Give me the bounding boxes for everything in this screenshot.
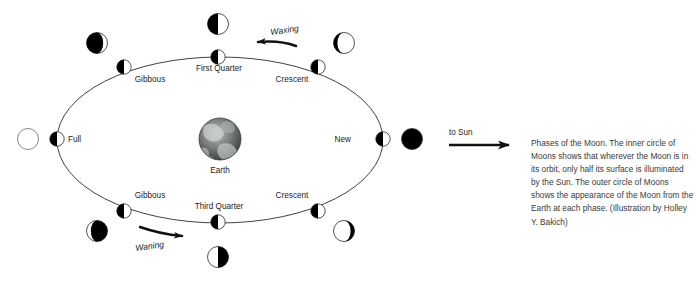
phase-label-waning-gibbous: Gibbous <box>135 191 166 200</box>
inner-moon-waning-gibbous <box>117 204 131 218</box>
inner-moon-waxing-crescent <box>311 60 325 74</box>
outer-moon-waxing-gibbous <box>87 33 108 54</box>
outer-moon-third-quarter <box>208 247 229 268</box>
inner-moon-waning-crescent <box>311 204 325 218</box>
phase-label-third-quarter: Third Quarter <box>195 202 244 211</box>
waxing-label: Waxing <box>270 23 300 37</box>
inner-moon-full <box>50 132 64 146</box>
to-sun-label: to Sun <box>449 128 473 137</box>
inner-moon-new <box>376 132 390 146</box>
outer-moon-full <box>18 129 39 150</box>
figure-caption: Phases of the Moon. The inner circle of … <box>531 137 694 229</box>
inner-moon-waxing-gibbous <box>117 60 131 74</box>
waning-label: Waning <box>135 239 165 253</box>
outer-moon-first-quarter <box>208 14 229 35</box>
outer-moon-waxing-crescent <box>334 33 355 54</box>
earth-body <box>196 118 241 164</box>
phase-label-new: New <box>335 135 351 144</box>
waning-arrow <box>140 227 182 236</box>
outer-moon-waning-gibbous <box>87 221 108 242</box>
inner-moon-third-quarter <box>211 215 225 229</box>
phase-label-waxing-gibbous: Gibbous <box>135 75 166 84</box>
earth-label: Earth <box>210 166 230 175</box>
outer-moon-new <box>402 129 423 150</box>
phase-label-full: Full <box>68 135 81 144</box>
phase-label-waxing-crescent: Crescent <box>276 75 309 84</box>
phase-label-first-quarter: First Quarter <box>196 64 242 73</box>
moon-phases-diagram: New Crescent First Quarter Gibbous Full … <box>0 0 696 281</box>
phase-label-waning-crescent: Crescent <box>276 191 309 200</box>
outer-moon-waning-crescent <box>334 221 355 242</box>
inner-moon-first-quarter <box>211 50 225 64</box>
waxing-arrow <box>258 42 296 47</box>
